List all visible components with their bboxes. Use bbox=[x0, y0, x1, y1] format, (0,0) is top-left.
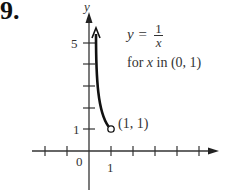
origin-label: 0 bbox=[76, 154, 83, 169]
condition-prefix: for bbox=[127, 55, 143, 70]
condition-suffix: in (0, 1) bbox=[157, 55, 202, 70]
y-axis-label: y bbox=[82, 0, 90, 14]
x-axis-arrow-icon bbox=[208, 148, 219, 155]
fraction: 1 x bbox=[154, 22, 163, 49]
point-label: (1, 1) bbox=[118, 116, 149, 132]
equation-lhs: y = bbox=[127, 26, 148, 42]
y-tick-label-5: 5 bbox=[71, 36, 78, 51]
fraction-denominator: x bbox=[154, 36, 163, 49]
y-tick-label-1: 1 bbox=[73, 122, 80, 137]
x-tick-label-1: 1 bbox=[107, 160, 114, 175]
graph: y 5 1 0 1 (1, 1) bbox=[0, 0, 226, 195]
domain-condition: for x in (0, 1) bbox=[127, 55, 201, 71]
condition-var: x bbox=[147, 55, 153, 70]
open-endpoint-icon bbox=[108, 126, 114, 132]
function-curve bbox=[96, 34, 109, 127]
equation: y = 1 x bbox=[127, 22, 163, 49]
fraction-numerator: 1 bbox=[154, 22, 163, 36]
